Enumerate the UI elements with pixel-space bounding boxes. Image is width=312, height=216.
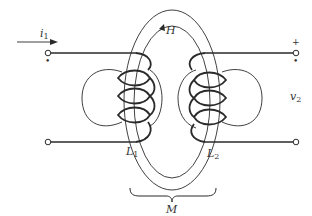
leakage-loop-right	[222, 70, 262, 126]
current-label: i1	[40, 28, 49, 41]
dot-right: •	[293, 57, 298, 66]
terminal-left-top	[45, 50, 51, 56]
mutual-label: M	[166, 204, 177, 215]
inductor1-label: L1	[126, 146, 138, 159]
field-label: H	[166, 25, 176, 36]
dot-left: •	[45, 57, 50, 66]
leakage-loop-left	[82, 70, 122, 126]
lead-wires	[51, 53, 293, 142]
flux-loops	[124, 10, 220, 190]
terminals	[45, 50, 299, 145]
terminal-right-top	[293, 50, 299, 56]
voltage-label: v2	[290, 91, 301, 104]
current-arrow	[17, 39, 58, 45]
terminal-left-bottom	[45, 139, 51, 145]
terminal-right-bottom	[293, 139, 299, 145]
inductor2-label: L2	[207, 148, 219, 161]
plus-sign: +	[292, 38, 300, 47]
